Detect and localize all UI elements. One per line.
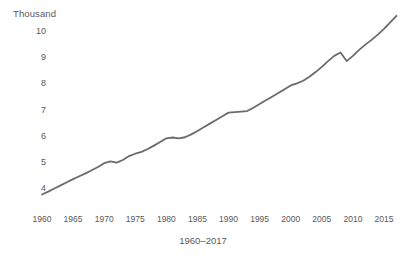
x-axis-tick-2010: 2010 (343, 214, 362, 224)
x-axis-tick-2005: 2005 (312, 214, 331, 224)
x-axis-tick-2015: 2015 (375, 214, 394, 224)
y-axis-tick-10: 10 (24, 26, 46, 36)
x-axis-tick-1965: 1965 (64, 214, 83, 224)
y-axis-tick-9: 9 (24, 52, 46, 62)
x-axis-tick-1975: 1975 (126, 214, 145, 224)
y-axis-tick-6: 6 (24, 131, 46, 141)
x-axis-tick-1990: 1990 (219, 214, 238, 224)
data-series-line (42, 16, 396, 195)
x-axis-tick-1985: 1985 (188, 214, 207, 224)
y-axis-tick-7: 7 (24, 105, 46, 115)
y-axis-tick-8: 8 (24, 78, 46, 88)
x-axis-title: 1960–2017 (0, 235, 406, 246)
line-chart: Thousand 45678910 1960196519701975198019… (0, 0, 406, 259)
y-axis-tick-4: 4 (24, 183, 46, 193)
x-axis-tick-1980: 1980 (157, 214, 176, 224)
x-axis-tick-1960: 1960 (33, 214, 52, 224)
x-axis-tick-1970: 1970 (95, 214, 114, 224)
x-axis-tick-1995: 1995 (250, 214, 269, 224)
y-axis-tick-5: 5 (24, 157, 46, 167)
x-axis-tick-2000: 2000 (281, 214, 300, 224)
x-axis-tick-labels: 1960196519701975198019851990199520002005… (0, 214, 406, 228)
